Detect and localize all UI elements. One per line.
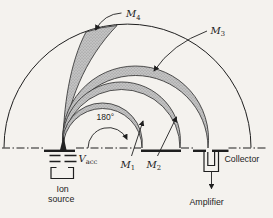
diagram-background (0, 0, 273, 218)
spectrometer-diagram: M4 M3 M1 M2 180° Vacc Ion source Collect… (0, 0, 273, 218)
label-angle: 180° (97, 112, 115, 122)
label-amplifier: Amplifier (190, 197, 224, 207)
label-collector: Collector (225, 154, 260, 164)
label-ion-source-line2: source (48, 194, 75, 204)
label-ion-source-line1: Ion (57, 184, 69, 194)
